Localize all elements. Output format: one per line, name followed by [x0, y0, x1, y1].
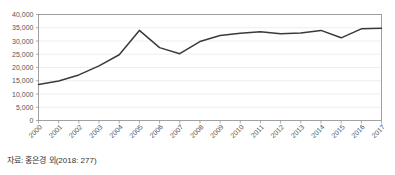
x-tick-label: 2017: [370, 123, 386, 139]
x-tick-label: 2011: [250, 123, 266, 139]
source-caption: 자료: 홍은경 외(2018: 277): [7, 154, 97, 165]
line-chart: 05,00010,00015,00020,00025,00030,00035,0…: [0, 0, 395, 150]
x-tick-label: 2016: [350, 123, 366, 139]
x-tick-label: 2008: [189, 123, 205, 139]
y-tick-label: 30,000: [12, 38, 34, 45]
figure-container: 05,00010,00015,00020,00025,00030,00035,0…: [0, 0, 395, 175]
y-tick-label: 35,000: [12, 24, 34, 31]
x-tick-label: 2014: [310, 123, 326, 139]
x-tick-label: 2007: [168, 123, 184, 139]
y-tick-label: 20,000: [12, 64, 34, 71]
y-tick-label: 40,000: [12, 11, 34, 18]
x-tick-label: 2000: [27, 123, 43, 139]
y-tick-label: 0: [30, 117, 34, 124]
y-axis-tick-labels: 05,00010,00015,00020,00025,00030,00035,0…: [12, 11, 34, 124]
x-tick-label: 2001: [47, 123, 63, 139]
y-tick-label: 10,000: [12, 91, 34, 98]
x-tick-label: 2003: [88, 123, 104, 139]
x-tick-label: 2015: [330, 123, 346, 139]
x-tick-label: 2004: [108, 123, 124, 139]
data-series-line: [39, 28, 382, 84]
x-tick-label: 2010: [229, 123, 245, 139]
y-tick-label: 5,000: [16, 104, 34, 111]
gridlines-group: [36, 15, 382, 121]
x-tick-label: 2005: [128, 123, 144, 139]
x-tick-label: 2009: [209, 123, 225, 139]
x-tick-label: 2006: [148, 123, 164, 139]
x-axis-tick-labels: 2000200120022003200420052006200720082009…: [27, 123, 386, 139]
x-tick-label: 2002: [68, 123, 84, 139]
x-tick-label: 2013: [290, 123, 306, 139]
x-axis-tick-marks: [39, 121, 382, 124]
y-tick-label: 25,000: [12, 51, 34, 58]
x-tick-label: 2012: [269, 123, 285, 139]
chart-svg: 05,00010,00015,00020,00025,00030,00035,0…: [0, 0, 395, 150]
y-tick-label: 15,000: [12, 77, 34, 84]
